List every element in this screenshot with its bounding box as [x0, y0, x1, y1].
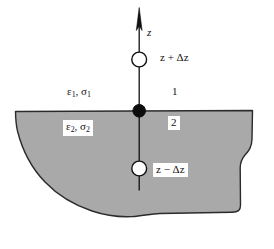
node-upper-label: z + Δz — [160, 52, 189, 63]
region-2-number-label: 2 — [168, 116, 180, 130]
diagram-svg — [0, 0, 274, 249]
sigma-2-subscript: 2 — [86, 125, 90, 134]
z-axis-label: z — [147, 27, 151, 38]
figure-canvas: z z + Δz ε1, σ1 1 2 ε2, σ2 z − Δz — [0, 0, 274, 249]
region-1-number-label: 1 — [172, 86, 178, 97]
region-2-properties-label: ε2, σ2 — [63, 120, 93, 136]
node-upper-circle-icon — [132, 52, 147, 67]
node-interface-dot-icon — [133, 105, 146, 118]
region-1-properties-label: ε1, σ1 — [67, 86, 91, 99]
node-lower-circle-icon — [132, 161, 147, 176]
sigma-1-subscript: 1 — [87, 90, 91, 99]
node-lower-label: z − Δz — [153, 163, 188, 177]
